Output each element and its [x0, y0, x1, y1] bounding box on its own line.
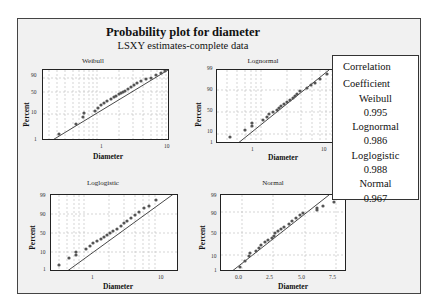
plot-area: [42, 69, 169, 140]
y-axis-label: Percent: [28, 225, 37, 249]
y-tick: 90: [40, 211, 46, 217]
x-tick: 5.0: [298, 274, 305, 280]
plot-area: [50, 194, 178, 271]
plot-area: [216, 69, 341, 143]
panel-title: Weibull: [18, 57, 168, 65]
legend-item-name: Normal: [333, 177, 418, 191]
y-tick: 90: [211, 210, 217, 216]
x-axis-label: Diameter: [88, 282, 148, 291]
x-tick: 7.5: [329, 274, 336, 280]
x-axis-label: Diameter: [78, 152, 138, 161]
legend-item-value: 0.995: [333, 106, 418, 120]
y-tick: 99: [207, 65, 213, 71]
y-tick: 50: [211, 230, 217, 236]
panel-lognormal: Lognormal Percent 99 90 50 10 1 1 10 Dia…: [178, 55, 348, 175]
y-tick: 90: [31, 72, 37, 78]
x-tick: 1: [100, 143, 103, 149]
x-tick: 1: [251, 146, 254, 152]
y-tick: 1: [210, 139, 213, 145]
legend-item-name: Lognormal: [333, 120, 418, 134]
legend-item-value: 0.988: [333, 163, 418, 177]
panel-title: Normal: [198, 179, 348, 187]
chart-subtitle: LSXY estimates-complete data: [18, 40, 348, 51]
y-tick: 50: [31, 89, 37, 95]
legend-heading: Coefficient: [333, 77, 418, 91]
x-tick: 1: [91, 274, 94, 280]
correlation-legend: Correlation Coefficient Weibull 0.995 Lo…: [332, 55, 419, 200]
x-tick: 10: [321, 146, 327, 152]
y-axis-label: Percent: [22, 102, 31, 126]
y-axis-label: Percent: [198, 225, 207, 249]
x-tick: 0.0: [235, 274, 242, 280]
y-tick: 10: [211, 253, 217, 259]
x-tick: 10: [158, 274, 164, 280]
y-tick: 1: [34, 136, 37, 142]
panel-title: Loglogistic: [28, 179, 178, 187]
legend-item-value: 0.967: [333, 192, 418, 206]
y-tick: 99: [40, 192, 46, 198]
x-tick: 2.5: [266, 274, 273, 280]
panel-title: Lognormal: [188, 57, 338, 65]
legend-item-value: 0.986: [333, 134, 418, 148]
chart-title: Probability plot for diameter: [18, 25, 348, 40]
y-tick: 10: [207, 128, 213, 134]
legend-item-name: Loglogistic: [333, 149, 418, 163]
panel-weibull: Weibull Percent 90 50 10 1 1 10 Diameter: [18, 55, 178, 175]
y-tick: 50: [207, 107, 213, 113]
y-axis-label: Percent: [194, 102, 203, 126]
x-axis-label: Diameter: [253, 153, 313, 162]
y-tick: 50: [40, 230, 46, 236]
y-tick: 1: [214, 267, 217, 273]
y-tick: 10: [40, 249, 46, 255]
legend-heading: Correlation: [333, 60, 418, 74]
y-tick: 10: [31, 109, 37, 115]
x-tick: 10: [164, 143, 170, 149]
legend-item-name: Weibull: [333, 92, 418, 106]
x-axis-label: Diameter: [263, 282, 323, 291]
panel-loglogistic: Loglogistic Percent 99 90 50 10 1 1 10 D…: [18, 175, 178, 295]
y-tick: 1: [43, 266, 46, 272]
plot-area: [220, 194, 346, 271]
y-tick: 90: [207, 86, 213, 92]
panel-normal: Normal Percent 99 90 50 10 1 0.0 2.5 5.0…: [178, 175, 348, 295]
y-tick: 99: [211, 192, 217, 198]
